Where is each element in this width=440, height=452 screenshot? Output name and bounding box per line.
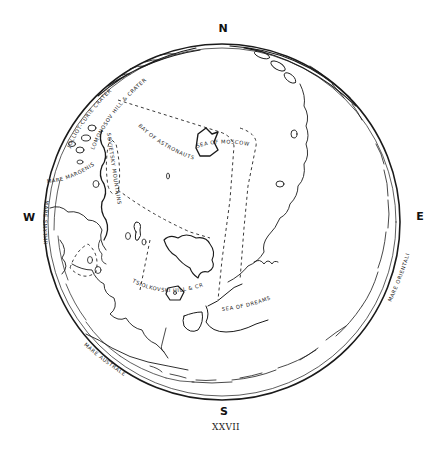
sovietsky-mountains-ridge <box>100 130 107 240</box>
compass-south: S <box>220 405 228 418</box>
compass-labels: N S E W <box>23 22 424 418</box>
moon-far-side-map: JOLLIOT-CURIE CRATER LOMONOSOV HILL & CR… <box>0 0 440 452</box>
label-sea-of-moscow: SEA OF MOSCOW <box>195 138 250 149</box>
compass-east: E <box>416 210 424 223</box>
compass-west: W <box>23 211 35 224</box>
label-lomonosov-hill-crater: LOMONOSOV HILL & CRATER <box>89 77 147 151</box>
label-sovietsky-mountains: SOVIETSKY MOUNTAINS <box>106 132 123 205</box>
lunar-limb <box>44 44 400 400</box>
dashed-boundaries <box>70 100 256 300</box>
feature-labels: JOLLIOT-CURIE CRATER LOMONOSOV HILL & CR… <box>0 0 411 377</box>
plate-number: XXVII <box>212 422 240 432</box>
label-bay-of-astronauts: BAY OF ASTRONAUTS <box>137 122 195 161</box>
compass-north: N <box>218 22 227 35</box>
mare-coastlines <box>50 84 308 370</box>
label-mare-australe: MARE AUSTRALE <box>83 341 127 377</box>
label-sea-of-dreams: SEA OF DREAMS <box>221 295 271 312</box>
